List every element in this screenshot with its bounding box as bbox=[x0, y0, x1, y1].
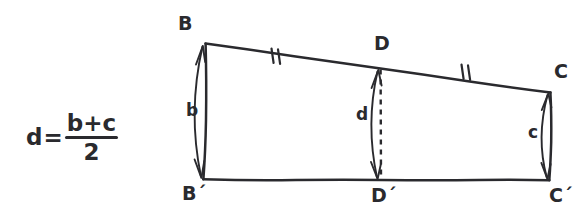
tick-stroke-2 bbox=[468, 65, 470, 80]
vertex-label-C-prime: C´ bbox=[549, 186, 573, 205]
edge-bottom-BprimeCprime bbox=[203, 179, 549, 180]
trapezoid-outline bbox=[203, 44, 551, 181]
formula-equals-sign: = bbox=[43, 126, 62, 149]
vertex-label-B: B bbox=[178, 14, 193, 33]
vertex-label-D-prime: D´ bbox=[371, 186, 397, 205]
segment-label-b: b bbox=[186, 102, 198, 119]
vertex-label-D: D bbox=[374, 34, 390, 53]
tick-mark-BD bbox=[272, 49, 281, 64]
tick-stroke-1 bbox=[462, 65, 464, 80]
formula-lhs: d bbox=[26, 126, 42, 149]
tick-stroke-1 bbox=[272, 49, 274, 64]
edge-left-BBprime bbox=[203, 44, 206, 179]
vertex-label-B-prime: B´ bbox=[182, 184, 206, 203]
segment-label-c: c bbox=[528, 124, 538, 141]
segment-label-d: d bbox=[356, 106, 368, 123]
formula-denominator: 2 bbox=[83, 139, 99, 164]
tick-stroke-2 bbox=[278, 49, 280, 64]
tick-mark-DC bbox=[462, 65, 471, 80]
formula-numerator: b+c bbox=[65, 112, 118, 136]
formula-fraction: b+c 2 bbox=[65, 112, 118, 164]
geometry-figure: d = b+c 2 B D C B´ D´ C´ b d c bbox=[0, 0, 588, 222]
formula-midline: d = b+c 2 bbox=[26, 112, 118, 164]
vertex-label-C: C bbox=[554, 62, 568, 81]
